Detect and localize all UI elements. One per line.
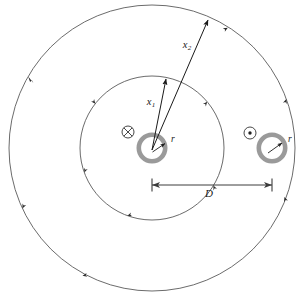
label-x2-subscript: 2	[188, 44, 192, 52]
label-x2: x2	[182, 39, 192, 52]
conductor-right-ring	[259, 135, 285, 161]
label-x1-subscript: 1	[152, 101, 156, 109]
field-arrowhead-inner-1	[91, 99, 97, 105]
diagram-canvas: x1 x2 r r D	[0, 0, 305, 298]
field-arrowhead-inner-5	[203, 101, 209, 107]
current-into-page-icon	[122, 126, 134, 138]
label-r-left: r	[171, 134, 175, 144]
physics-figure-svg: x1 x2 r r D	[0, 0, 305, 298]
x2-leader-line	[152, 20, 208, 150]
conductor-right-group	[259, 135, 285, 161]
current-out-of-page-icon	[244, 127, 256, 139]
label-separation-D: D	[204, 187, 213, 199]
label-x1: x1	[146, 96, 156, 109]
label-r-right: r	[288, 134, 292, 144]
